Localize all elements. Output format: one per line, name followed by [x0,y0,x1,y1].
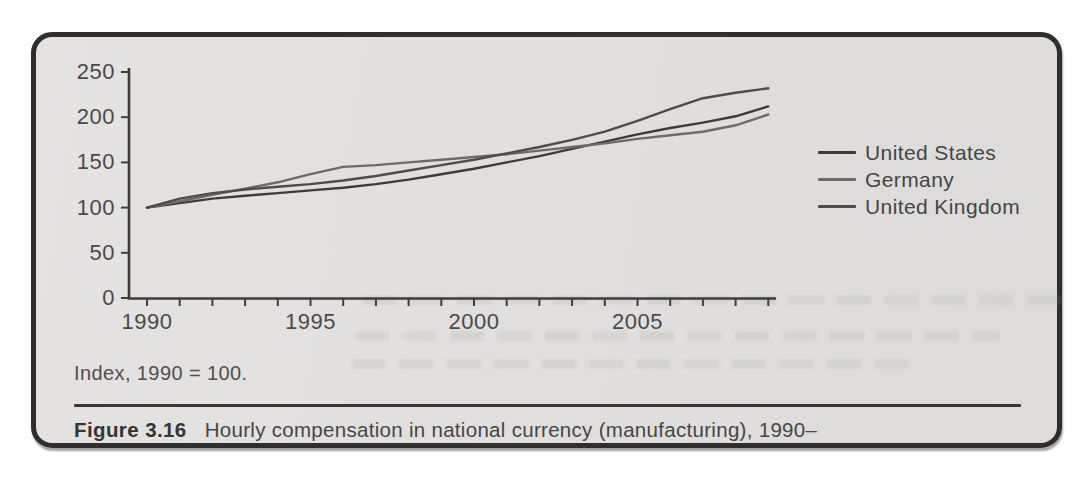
svg-text:1990: 1990 [122,309,173,334]
legend-item-united-states: United States [818,139,1020,166]
figure-caption: Figure 3.16 Hourly compensation in natio… [74,418,1034,442]
figure-number: Figure 3.16 [74,418,187,442]
germany-line-swatch [818,178,856,181]
caption-divider-rule [74,404,1021,407]
united-kingdom-line-swatch [818,205,856,208]
svg-text:2005: 2005 [612,309,663,334]
svg-text:2000: 2000 [449,309,500,334]
index-base-note: Index, 1990 = 100. [74,362,247,385]
svg-text:50: 50 [90,240,115,265]
scanned-book-page: { "figure": { "note": "Index, 1990 = 100… [0,0,1091,479]
legend-label: Germany [865,168,954,192]
legend-label: United States [865,141,996,165]
svg-text:250: 250 [77,59,115,84]
united-states-line-swatch [818,151,856,154]
svg-text:100: 100 [77,195,115,220]
svg-text:150: 150 [77,149,115,174]
figure-caption-text: Hourly compensation in national currency… [205,418,818,442]
chart-legend: United States Germany United Kingdom [818,139,1020,220]
svg-text:1995: 1995 [285,309,336,334]
svg-text:200: 200 [77,104,115,129]
legend-item-united-kingdom: United Kingdom [818,193,1020,220]
legend-label: United Kingdom [865,195,1020,219]
svg-text:0: 0 [102,285,115,310]
legend-item-germany: Germany [818,166,1020,193]
compensation-line-chart: 0501001502002501990199520002005 [0,0,1091,479]
